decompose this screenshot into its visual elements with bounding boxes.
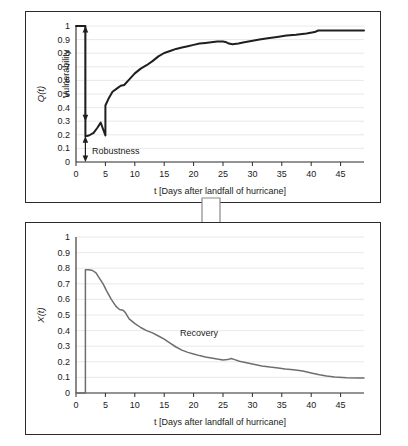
top-data-curve [76,26,364,136]
bottom-x-axis-title: t [Days after landfall of hurricane] [154,417,286,427]
x-tick: 0 [73,400,78,410]
chart-panel-bottom: 1 0.9 0.8 0.7 0.6 0.5 0.4 0.3 0.2 0.1 0 [25,222,381,435]
x-tick: 35 [277,169,287,179]
x-tick: 30 [247,169,257,179]
bottom-gridlines [76,237,364,377]
y-tick: 0.2 [57,357,70,367]
x-tick: 20 [189,169,199,179]
y-tick: 0.5 [57,310,70,320]
x-tick: 0 [73,169,78,179]
x-tick: 30 [247,400,257,410]
y-tick: 0.3 [57,341,70,351]
x-tick: 5 [103,400,108,410]
robustness-annotation: Robustness [83,136,140,162]
y-tick: 0 [65,157,70,167]
x-tick: 25 [218,400,228,410]
x-tick: 45 [336,169,346,179]
y-tick: 0.4 [57,103,70,113]
bottom-chart-svg: 1 0.9 0.8 0.7 0.6 0.5 0.4 0.3 0.2 0.1 0 [26,223,380,434]
y-tick: 0.1 [57,143,70,153]
x-tick: 15 [159,400,169,410]
y-tick: 0.8 [57,263,70,273]
bottom-data-curve [76,270,364,393]
y-tick: 0.2 [57,130,70,140]
resilience-figure: 1 0.9 0.8 0.7 0.6 0.5 0.4 0.3 0.2 0.1 0 [0,0,408,446]
bottom-x-ticks: 0 5 10 15 20 25 30 35 40 45 [73,393,345,410]
vulnerability-label: Vulnerability [61,49,71,98]
x-tick: 25 [218,169,228,179]
robustness-label: Robustness [92,146,140,156]
top-chart-svg: 1 0.9 0.8 0.7 0.6 0.5 0.4 0.3 0.2 0.1 0 [26,12,380,202]
recovery-label: Recovery [180,328,219,338]
x-tick: 20 [189,400,199,410]
bottom-y-axis-title: X(t) [35,307,46,323]
y-tick: 0 [65,388,70,398]
top-x-ticks: 0 5 10 15 20 25 30 35 40 45 [73,162,345,179]
x-tick: 35 [277,400,287,410]
x-tick: 5 [103,169,108,179]
y-tick: 0.4 [57,326,70,336]
x-tick: 40 [306,400,316,410]
x-tick: 15 [159,169,169,179]
x-tick: 40 [306,169,316,179]
x-tick: 10 [130,400,140,410]
top-y-axis-title: Q(t) [35,86,46,102]
y-tick: 0.9 [57,248,70,258]
bottom-y-tick-labels: 1 0.9 0.8 0.7 0.6 0.5 0.4 0.3 0.2 0.1 0 [57,232,70,398]
y-tick: 0.9 [57,35,70,45]
y-tick: 0.7 [57,279,70,289]
y-tick: 1 [65,232,70,242]
y-tick: 0.6 [57,294,70,304]
x-tick: 10 [130,169,140,179]
top-x-axis-title: t [Days after landfall of hurricane] [154,186,286,196]
chart-panel-top: 1 0.9 0.8 0.7 0.6 0.5 0.4 0.3 0.2 0.1 0 [25,11,381,203]
y-tick: 0.3 [57,116,70,126]
y-tick: 1 [65,21,70,31]
y-tick: 0.1 [57,372,70,382]
x-tick: 45 [336,400,346,410]
